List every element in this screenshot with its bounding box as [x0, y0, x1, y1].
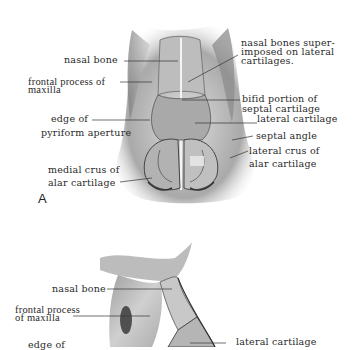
label-b-frontal-process-line2: of maxilla [15, 313, 60, 322]
orbit-shadow [120, 306, 132, 334]
label-pyriform-aperture: pyriform aperture [41, 128, 131, 138]
label-frontal-process-line2: maxilla [28, 85, 61, 94]
figure-b-drawing [100, 242, 215, 347]
label-nasal-bones-superimposed-line3: cartilages. [241, 56, 294, 66]
label-b-lateral-cartilage: lateral cartilage [236, 337, 317, 347]
label-lateral-cartilage: lateral cartilage [257, 114, 338, 124]
label-medial-crus-line1: medial crus of [48, 165, 119, 175]
label-septal-angle: septal angle [256, 131, 317, 141]
figure-a-drawing [117, 25, 254, 203]
label-medial-crus-line2: alar cartilage [48, 178, 116, 188]
lateral-cartilages [152, 95, 211, 140]
label-b-nasal-bone: nasal bone [52, 284, 106, 294]
label-lateral-crus-line2: alar cartilage [249, 159, 317, 169]
figure-letter-a: A [38, 191, 47, 206]
label-lateral-crus-line1: lateral crus of [249, 146, 320, 156]
brow-tissue [100, 242, 192, 282]
label-b-edge-of: edge of [28, 340, 65, 350]
label-nasal-bone: nasal bone [64, 55, 118, 65]
frontal-process-b [109, 275, 162, 347]
label-edge-of: edge of [51, 114, 88, 124]
